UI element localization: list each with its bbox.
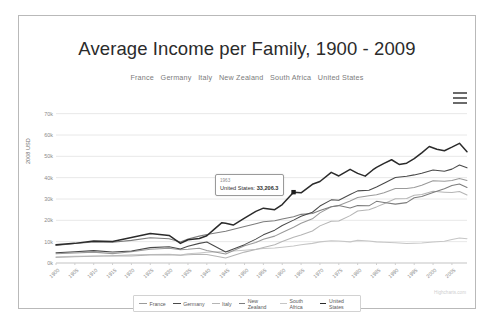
legend-item[interactable]: France xyxy=(139,301,166,307)
legend-label: South Africa xyxy=(289,298,312,310)
legend-label: Italy xyxy=(222,301,232,307)
y-axis-tick: 30k xyxy=(33,196,53,202)
y-axis-tick: 50k xyxy=(33,153,53,159)
legend-line-icon xyxy=(173,303,181,304)
legend-label: United States xyxy=(329,298,355,310)
y-axis-tick: 10k xyxy=(33,239,53,245)
legend-label: New Zealand xyxy=(248,298,274,310)
y-axis-tick: 0k xyxy=(33,260,53,266)
legend-line-icon xyxy=(212,303,220,304)
y-axis-tick: 60k xyxy=(33,132,53,138)
legend-item[interactable]: United States xyxy=(320,298,355,310)
tooltip: 1963 United States: 33,206.3 xyxy=(215,174,284,196)
y-axis-tick: 20k xyxy=(33,217,53,223)
legend-item[interactable]: New Zealand xyxy=(239,298,274,310)
y-axis-tick: 70k xyxy=(33,111,53,117)
tooltip-value: 33,206.3 xyxy=(257,185,279,191)
chart-legend: FranceGermanyItalyNew ZealandSouth Afric… xyxy=(133,295,361,312)
tooltip-body: United States: 33,206.3 xyxy=(220,184,278,192)
y-axis-tick: 40k xyxy=(33,175,53,181)
legend-line-icon xyxy=(239,303,246,304)
legend-line-icon xyxy=(280,303,287,304)
annotation-marker xyxy=(291,190,295,194)
legend-line-icon xyxy=(139,303,147,304)
series-line xyxy=(56,191,467,258)
legend-item[interactable]: Germany xyxy=(173,301,205,307)
legend-label: Germany xyxy=(183,301,204,307)
credits-label: Highcharts.com xyxy=(434,290,466,295)
series-canvas xyxy=(19,16,477,310)
legend-label: France xyxy=(150,301,166,307)
legend-item[interactable]: Italy xyxy=(212,301,232,307)
legend-item[interactable]: South Africa xyxy=(280,298,313,310)
chart-container: Average Income per Family, 1900 - 2009 F… xyxy=(18,15,476,309)
tooltip-series-name: United States: xyxy=(220,185,255,191)
legend-line-icon xyxy=(320,303,327,304)
plot-area xyxy=(19,16,475,308)
